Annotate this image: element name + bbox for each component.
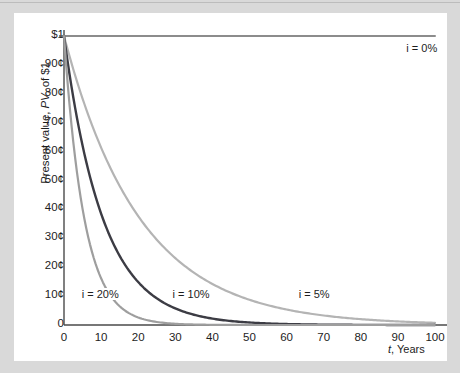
- curve-10-percent: [64, 36, 435, 325]
- curve-label-0-percent: i = 0%: [405, 42, 438, 54]
- curve-label-20-percent: i = 20%: [81, 288, 120, 300]
- figure-outer-frame: Present value, PV, of $1 t, Years $190¢8…: [0, 0, 460, 373]
- chart-panel: Present value, PV, of $1 t, Years $190¢8…: [14, 13, 447, 361]
- curve-label-5-percent: i = 5%: [298, 288, 331, 300]
- plot-area: [14, 13, 447, 361]
- curve-label-10-percent: i = 10%: [172, 288, 211, 300]
- curve-5-percent: [64, 36, 435, 323]
- frame-top-rule: [0, 2, 460, 3]
- curve-20-percent: [64, 36, 435, 325]
